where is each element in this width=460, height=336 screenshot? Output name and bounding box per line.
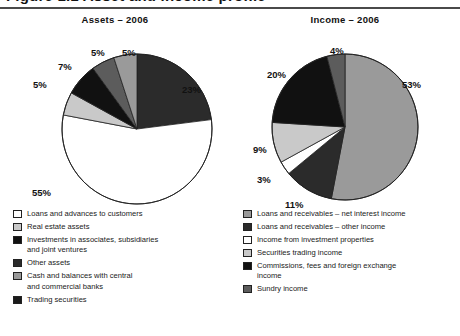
income-legend-label: Loans and receivables – other income (257, 222, 385, 232)
assets-pct-label-3: 5% (33, 79, 47, 90)
assets-legend-label: Real estate assets (27, 222, 89, 232)
income-legend: Loans and receivables – net interest inc… (243, 209, 458, 297)
income-pct-label-0: 4% (330, 45, 344, 56)
income-legend-swatch-3 (243, 249, 252, 257)
assets-legend-label: Trading securities (27, 295, 87, 305)
income-legend-swatch-4 (243, 262, 252, 270)
income-legend-swatch-0 (243, 210, 252, 218)
assets-legend-label: Loans and advances to customers (27, 209, 143, 219)
assets-legend-item[interactable]: Cash and balances with central and comme… (13, 271, 228, 292)
assets-legend-item[interactable]: Trading securities (13, 295, 228, 305)
income-legend-label: Securities trading income (257, 248, 342, 258)
assets-pct-label-5: 55% (32, 187, 51, 198)
assets-legend-swatch-0 (13, 210, 22, 218)
income-legend-item[interactable]: Loans and receivables – net interest inc… (243, 209, 458, 219)
assets-legend-label: Other assets (27, 258, 70, 268)
income-legend-label: Income from investment properties (257, 235, 374, 245)
income-legend-item[interactable]: Commissions, fees and foreign exchange i… (243, 261, 458, 282)
income-legend-label: Sundry income (257, 284, 308, 294)
income-legend-swatch-5 (243, 285, 252, 293)
assets-pct-label-1: 5% (122, 47, 136, 58)
assets-legend-swatch-2 (13, 236, 22, 244)
assets-legend-swatch-5 (13, 296, 22, 304)
income-pct-label-1: 53% (402, 79, 421, 90)
income-legend-swatch-2 (243, 236, 252, 244)
assets-pie-wrap: 5%5%7%5%23%55% (0, 9, 230, 209)
page-root: Figure 1.1 Asset and income profile Asse… (0, 0, 460, 336)
figure-heading-cutoff: Figure 1.1 Asset and income profile (6, 0, 266, 4)
assets-legend-label: Cash and balances with central and comme… (27, 271, 133, 292)
assets-legend-swatch-4 (13, 272, 22, 280)
income-legend-swatch-1 (243, 223, 252, 231)
assets-pct-label-2: 7% (58, 61, 72, 72)
assets-legend: Loans and advances to customersReal esta… (13, 209, 228, 308)
assets-legend-item[interactable]: Loans and advances to customers (13, 209, 228, 219)
assets-legend-label: Investments in associates, subsidiaries … (27, 235, 158, 256)
assets-pie-svg (0, 9, 230, 209)
income-legend-item[interactable]: Sundry income (243, 284, 458, 294)
income-legend-item[interactable]: Loans and receivables – other income (243, 222, 458, 232)
assets-legend-swatch-1 (13, 223, 22, 231)
income-legend-label: Loans and receivables – net interest inc… (257, 209, 406, 219)
income-legend-label: Commissions, fees and foreign exchange i… (257, 261, 396, 282)
income-pct-label-2: 20% (267, 69, 286, 80)
income-pct-label-3: 9% (253, 144, 267, 155)
assets-legend-item[interactable]: Investments in associates, subsidiaries … (13, 235, 228, 256)
income-pct-label-4: 3% (257, 174, 271, 185)
assets-legend-swatch-3 (13, 259, 22, 267)
assets-chart-panel: Assets – 2006 5%5%7%5%23%55% (0, 9, 230, 209)
income-legend-item[interactable]: Income from investment properties (243, 235, 458, 245)
assets-legend-item[interactable]: Other assets (13, 258, 228, 268)
assets-legend-item[interactable]: Real estate assets (13, 222, 228, 232)
income-pie-wrap: 4%53%20%9%3%11% (230, 9, 460, 209)
assets-pct-label-4: 23% (182, 84, 201, 95)
income-chart-panel: Income – 2006 4%53%20%9%3%11% (230, 9, 460, 209)
assets-pct-label-0: 5% (91, 47, 105, 58)
income-legend-item[interactable]: Securities trading income (243, 248, 458, 258)
